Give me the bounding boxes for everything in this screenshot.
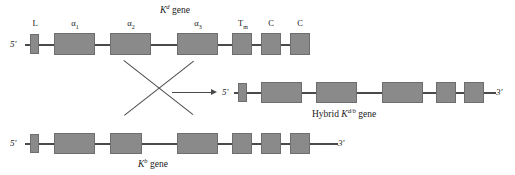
kd-exon-label-alpha3: α3	[187, 19, 209, 30]
kb-exon-6	[261, 133, 281, 154]
kb-three-prime-label: 3′	[338, 139, 344, 148]
hybrid-exon-3	[316, 82, 357, 103]
kd-exon-alpha1	[54, 33, 95, 55]
kd-exon-label-C1: C	[262, 19, 280, 28]
kd-gene-title: Kd gene	[160, 4, 190, 16]
kb-exon-1	[30, 134, 39, 153]
figure-canvas: Kd gene 5′ 3′ L α1 α2 α3 Tm C C 5′ 3′	[0, 0, 515, 175]
kd-exon-label-C1-text: C	[268, 18, 274, 28]
kd-five-prime-label: 5′	[10, 40, 16, 49]
kd-exon-label-alpha2-sub: 2	[132, 24, 135, 30]
hybrid-gene-title-superscript: d/b	[348, 107, 356, 114]
kb-exon-4	[177, 133, 218, 154]
kd-exon-label-L-text: L	[32, 18, 37, 28]
kd-exon-C1	[261, 33, 281, 55]
hybrid-five-prime-label: 5′	[222, 88, 228, 97]
reaction-arrow-head	[211, 89, 217, 95]
hybrid-gene-title-prefix: Hybrid	[312, 109, 341, 119]
kd-exon-label-L: L	[26, 19, 44, 28]
kb-exon-2	[54, 133, 95, 154]
kb-exon-3	[110, 133, 142, 154]
hybrid-exon-5	[436, 82, 456, 103]
kd-gene-title-suffix: gene	[170, 5, 190, 15]
kd-exon-L	[30, 34, 39, 54]
kd-exon-label-C2: C	[291, 19, 309, 28]
kb-exon-7	[290, 133, 310, 154]
kd-exon-label-alpha2: α2	[120, 19, 142, 30]
kd-exon-label-Tm: Tm	[233, 19, 253, 30]
kb-gene-title-suffix: gene	[148, 159, 168, 169]
kd-exon-label-Tm-sub: m	[243, 24, 248, 30]
hybrid-three-prime-label: 3′	[496, 88, 502, 97]
kd-exon-label-alpha1: α1	[64, 19, 86, 30]
kd-exon-label-alpha3-sub: 3	[199, 24, 202, 30]
kd-exon-alpha3	[177, 33, 218, 55]
kd-exon-Tm	[232, 33, 252, 55]
kb-exon-5	[232, 133, 252, 154]
hybrid-gene-title-suffix: gene	[356, 109, 376, 119]
hybrid-gene-title: Hybrid Kd/b gene	[312, 108, 376, 120]
kb-gene-title: Kb gene	[138, 158, 168, 170]
hybrid-exon-2	[261, 82, 302, 103]
kd-exon-alpha2	[110, 33, 151, 55]
kd-exon-C2	[290, 33, 310, 55]
reaction-arrow-shaft	[172, 92, 212, 93]
kb-five-prime-label: 5′	[10, 139, 16, 148]
kd-exon-label-alpha1-sub: 1	[76, 24, 79, 30]
hybrid-exon-4	[382, 82, 423, 103]
hybrid-exon-6	[464, 82, 484, 103]
kd-exon-label-C2-text: C	[297, 18, 303, 28]
hybrid-exon-1	[238, 83, 247, 102]
